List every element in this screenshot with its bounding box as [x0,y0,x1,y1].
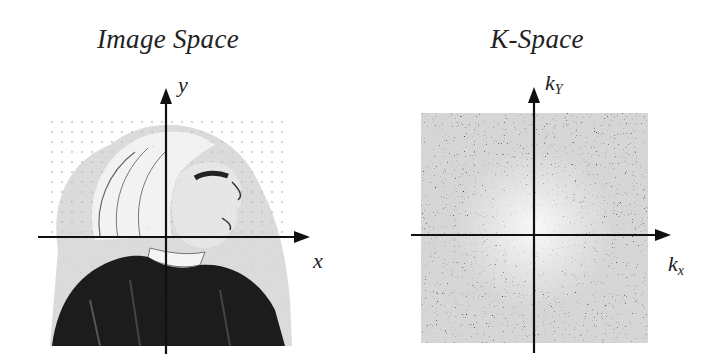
x-axis-label: x [313,250,323,272]
diagram-canvas [0,0,717,364]
portrait-image [47,113,292,346]
kx-label-subscript: x [678,263,684,278]
y-axis-label: y [178,74,188,96]
k-space-panel [411,87,671,353]
ky-axis-label: kY [545,72,563,97]
kx-axis-label: kx [668,253,684,278]
kx-axis-arrowhead-icon [655,229,671,241]
y-axis-arrowhead-icon [160,88,172,104]
x-axis-arrowhead-icon [294,231,310,243]
ky-label-subscript: Y [555,82,563,97]
kx-label-main: k [668,251,678,276]
image-space-panel [38,88,310,354]
ky-axis-arrowhead-icon [528,87,540,103]
ky-label-main: k [545,70,555,95]
